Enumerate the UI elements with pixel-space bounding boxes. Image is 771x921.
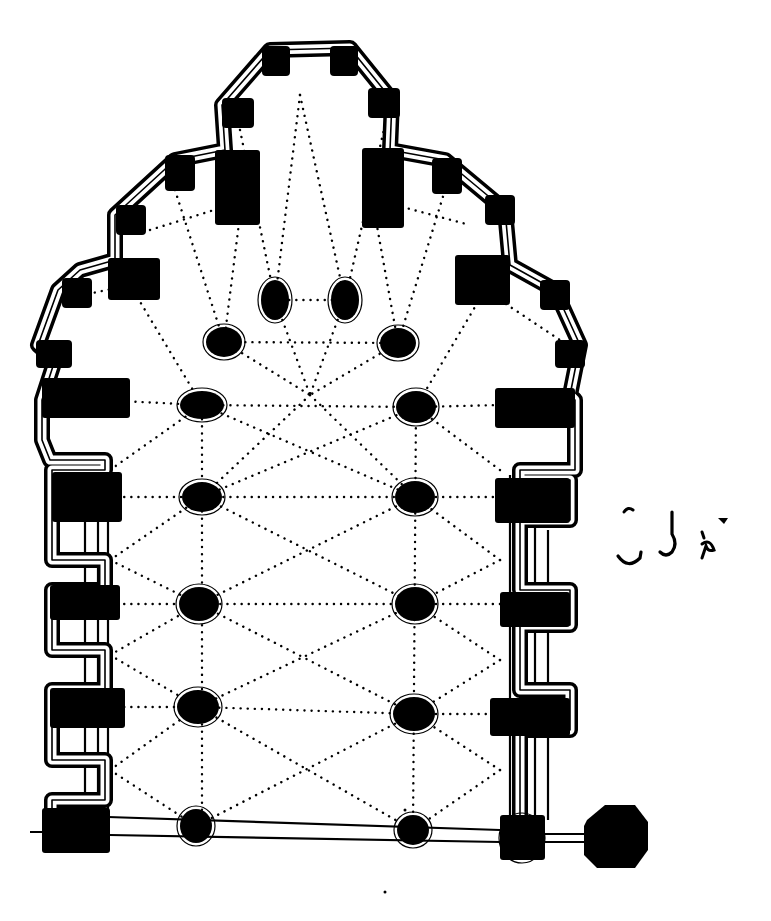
vault-rib bbox=[202, 405, 416, 407]
pier-west-right bbox=[397, 815, 429, 845]
vault-rib bbox=[224, 342, 398, 343]
vault-rib bbox=[130, 285, 202, 405]
pier-row3-left bbox=[179, 587, 219, 621]
chapel-left-base-block bbox=[36, 340, 72, 368]
facade-line bbox=[110, 835, 500, 842]
right-pier-2 bbox=[495, 478, 570, 523]
pier-row4-left bbox=[177, 690, 219, 724]
stray-ink-dot bbox=[404, 809, 407, 812]
vault-rib bbox=[196, 714, 414, 826]
pier-hemicycle-right bbox=[380, 328, 416, 358]
right-pier-apse bbox=[362, 148, 404, 228]
left-pier-3 bbox=[50, 585, 120, 620]
west-tower-base bbox=[584, 805, 648, 868]
chapel-left-low-block bbox=[62, 278, 92, 308]
vault-rib bbox=[413, 770, 500, 830]
chapel-right-low-block bbox=[540, 280, 570, 310]
right-pier-chapel bbox=[455, 255, 510, 305]
chapel-left-top-block bbox=[165, 155, 195, 191]
chapel-right-top-block bbox=[432, 158, 462, 194]
handwritten-annotation: (illegible handwritten mark) bbox=[612, 498, 752, 578]
pier-row1-left bbox=[180, 391, 224, 419]
vault-rib bbox=[199, 497, 415, 604]
facade-line bbox=[108, 817, 500, 830]
apse-top-right-block bbox=[330, 46, 358, 76]
handwritten-scribble-icon bbox=[612, 498, 752, 578]
pier-west-left bbox=[180, 809, 212, 843]
left-pier-apse bbox=[215, 150, 260, 225]
vault-rib bbox=[198, 707, 413, 830]
apse-upper-right-block bbox=[368, 88, 400, 118]
vault-rib bbox=[395, 205, 470, 225]
left-pier-4 bbox=[50, 688, 125, 728]
apse-top-left-block bbox=[262, 46, 290, 76]
pier-row1-right bbox=[396, 391, 436, 423]
pier-hemicycle-left bbox=[206, 327, 242, 357]
apse-buttress-blocks bbox=[36, 46, 585, 368]
left-pier-west bbox=[42, 808, 110, 853]
stray-ink-dot bbox=[595, 857, 598, 860]
right-pier-4 bbox=[490, 698, 570, 736]
left-pier-1 bbox=[42, 378, 130, 418]
vault-rib bbox=[199, 604, 414, 714]
chapel-right-mid-block bbox=[485, 195, 515, 225]
chapel-right-base-block bbox=[555, 340, 585, 368]
church-ground-plan bbox=[0, 0, 771, 921]
pier-west-corner bbox=[502, 816, 542, 860]
vault-rib bbox=[224, 215, 240, 342]
pier-apse-right bbox=[331, 280, 359, 320]
vault-rib bbox=[275, 95, 300, 300]
left-pier-chapel bbox=[108, 258, 160, 300]
vault-rib bbox=[300, 95, 345, 300]
left-pier-2 bbox=[52, 472, 122, 522]
stray-ink-dot bbox=[384, 891, 387, 894]
right-pier-1 bbox=[495, 388, 575, 428]
apse-upper-left-block bbox=[222, 98, 254, 128]
pier-row2-left bbox=[182, 482, 222, 512]
pier-apse-left bbox=[261, 280, 289, 320]
nave-piers bbox=[174, 277, 545, 863]
pier-row2-right bbox=[395, 481, 435, 513]
west-tower-base bbox=[584, 805, 648, 868]
vault-rib bbox=[198, 707, 414, 714]
right-pier-3 bbox=[500, 592, 570, 627]
vault-rib bbox=[202, 405, 415, 497]
pier-row3-right bbox=[395, 587, 435, 621]
aisle-wall-lines bbox=[85, 470, 548, 820]
chapel-left-mid-block bbox=[116, 205, 146, 235]
pier-row4-right bbox=[393, 697, 435, 731]
vault-rib bbox=[375, 215, 398, 343]
